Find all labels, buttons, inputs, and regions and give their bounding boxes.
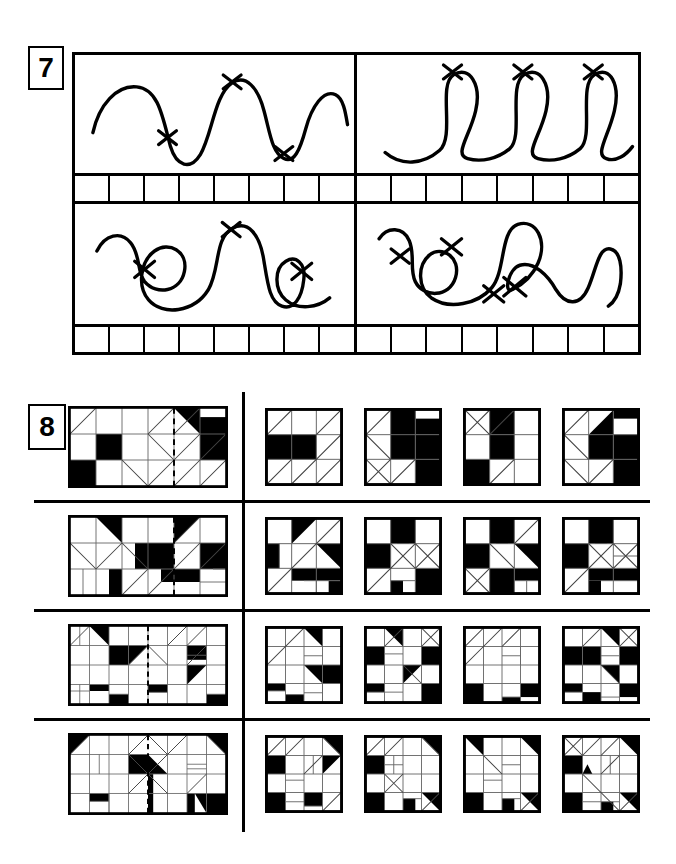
option-zone-row-4 (242, 735, 650, 813)
three-loops-figure (357, 55, 639, 173)
answer-box[interactable] (215, 327, 250, 352)
option-pattern-1d (564, 410, 638, 484)
answer-box[interactable] (427, 327, 462, 352)
stem-tile-row-3 (68, 624, 228, 706)
option-tile-1c[interactable] (463, 408, 541, 486)
stem-zone-row-4 (26, 733, 242, 815)
answer-box[interactable] (75, 327, 110, 352)
answer-box[interactable] (215, 176, 250, 201)
answer-box[interactable] (569, 176, 604, 201)
option-pattern-3a (267, 628, 341, 702)
answer-box[interactable] (605, 176, 638, 201)
answer-box[interactable] (320, 327, 353, 352)
answer-box[interactable] (285, 176, 320, 201)
option-tile-3a[interactable] (265, 626, 343, 704)
option-pattern-2d (564, 519, 638, 593)
double-loop-wave-figure (357, 204, 639, 325)
option-pattern-1c (465, 410, 539, 484)
answer-box[interactable] (357, 327, 392, 352)
exercise-8-area (26, 392, 650, 832)
answer-box[interactable] (498, 176, 533, 201)
option-pattern-3d (564, 628, 638, 702)
curve-panel-7c (75, 204, 357, 325)
option-pattern-4c (465, 737, 539, 811)
option-tile-4c[interactable] (463, 735, 541, 813)
answer-box[interactable] (110, 327, 145, 352)
answer-box[interactable] (498, 327, 533, 352)
option-pattern-2b (366, 519, 440, 593)
exercise-number-7: 7 (28, 46, 64, 90)
option-tile-3d[interactable] (562, 626, 640, 704)
option-pattern-1b (366, 410, 440, 484)
option-tile-1d[interactable] (562, 408, 640, 486)
answer-boxes-7c (75, 327, 357, 352)
option-tile-3c[interactable] (463, 626, 541, 704)
stem-zone-row-1 (26, 406, 242, 488)
curve-panel-7d (357, 204, 639, 325)
option-pattern-2a (267, 519, 341, 593)
answer-box[interactable] (392, 176, 427, 201)
option-tile-1a[interactable] (265, 408, 343, 486)
option-pattern-3b (366, 628, 440, 702)
option-tile-4a[interactable] (265, 735, 343, 813)
pattern-grid-4x8 (70, 626, 226, 704)
option-tile-4b[interactable] (364, 735, 442, 813)
answer-box[interactable] (145, 327, 180, 352)
option-zone-row-2 (242, 517, 650, 595)
stem-zone-row-3 (26, 624, 242, 706)
answer-box-row-top (75, 173, 638, 201)
option-tile-1b[interactable] (364, 408, 442, 486)
option-pattern-4a (267, 737, 341, 811)
stem-tile-row-1 (68, 406, 228, 488)
answer-boxes-7a (75, 176, 357, 201)
exercise-8-row-1 (26, 392, 650, 501)
curve-pair-bottom (75, 204, 638, 325)
exercise-7-row-bottom (75, 204, 638, 353)
exercise-8-row-3 (26, 610, 650, 719)
option-tile-2b[interactable] (364, 517, 442, 595)
answer-box[interactable] (250, 327, 285, 352)
exercise-7-row-top (75, 55, 638, 204)
option-tile-4d[interactable] (562, 735, 640, 813)
option-pattern-4b (366, 737, 440, 811)
option-zone-row-1 (242, 408, 650, 486)
cross-marks (135, 222, 312, 279)
answer-box[interactable] (534, 327, 569, 352)
answer-boxes-7d (357, 327, 639, 352)
answer-box[interactable] (320, 176, 353, 201)
answer-box[interactable] (180, 176, 215, 201)
answer-box[interactable] (110, 176, 145, 201)
answer-box[interactable] (534, 176, 569, 201)
pattern-grid-3x6 (70, 408, 226, 486)
option-pattern-4d (564, 737, 638, 811)
answer-box[interactable] (145, 176, 180, 201)
option-zone-row-3 (242, 626, 650, 704)
curve-panel-7b (357, 55, 639, 173)
exercise-8-row-2 (26, 501, 650, 610)
option-pattern-1a (267, 410, 341, 484)
answer-box[interactable] (569, 327, 604, 352)
option-pattern-2c (465, 519, 539, 593)
answer-box[interactable] (250, 176, 285, 201)
answer-box[interactable] (75, 176, 110, 201)
answer-box[interactable] (463, 327, 498, 352)
option-tile-2a[interactable] (265, 517, 343, 595)
answer-box[interactable] (357, 176, 392, 201)
stem-zone-row-2 (26, 515, 242, 597)
answer-box[interactable] (392, 327, 427, 352)
option-tile-2d[interactable] (562, 517, 640, 595)
answer-box[interactable] (605, 327, 638, 352)
answer-box[interactable] (427, 176, 462, 201)
option-tile-3b[interactable] (364, 626, 442, 704)
answer-box[interactable] (180, 327, 215, 352)
curve-pair-top (75, 55, 638, 173)
loop-wave-loop-figure (75, 204, 354, 325)
option-tile-2c[interactable] (463, 517, 541, 595)
pattern-grid-3x6 (70, 517, 226, 595)
answer-box[interactable] (463, 176, 498, 201)
answer-boxes-7b (357, 176, 639, 201)
pattern-grid-4x8 (70, 735, 226, 813)
answer-box[interactable] (285, 327, 320, 352)
answer-box-row-bottom (75, 324, 638, 352)
curve-panel-7a (75, 55, 357, 173)
